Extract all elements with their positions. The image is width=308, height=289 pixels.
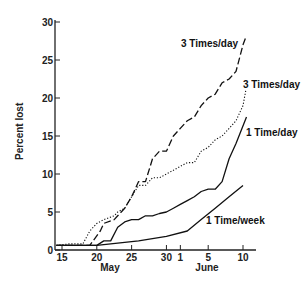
x-month-may: May — [100, 262, 120, 273]
series-line-1-time-day-solid — [56, 117, 246, 245]
y-axis-label: Percent lost — [14, 102, 25, 160]
label-1-time-day: 1 Time/day — [246, 127, 298, 138]
y-tick-label: 0 — [47, 245, 53, 256]
y-tick-label: 15 — [42, 131, 54, 142]
line-chart: 051015202530 152025301510 Percent lost M… — [0, 0, 308, 289]
label-1-time-week: 1 Time/week — [206, 215, 265, 226]
y-tick-label: 20 — [42, 93, 54, 104]
x-tick-label: 10 — [237, 252, 249, 263]
x-tick-label: 25 — [126, 252, 138, 263]
x-tick-label: 15 — [56, 252, 68, 263]
label-3-times-day-dashed: 3 Times/day — [181, 38, 239, 49]
label-3-times-day-dotted: 3 Times/day — [243, 79, 301, 90]
y-tick-label: 30 — [42, 17, 54, 28]
y-tick-label: 10 — [42, 169, 54, 180]
x-tick-label: 30 — [161, 252, 173, 263]
x-tick-label: 1 — [178, 252, 184, 263]
x-ticks: 152025301510 — [56, 245, 249, 263]
y-tick-label: 25 — [42, 55, 54, 66]
x-month-june: June — [195, 262, 219, 273]
y-tick-label: 5 — [47, 207, 53, 218]
y-ticks: 051015202530 — [42, 17, 60, 256]
